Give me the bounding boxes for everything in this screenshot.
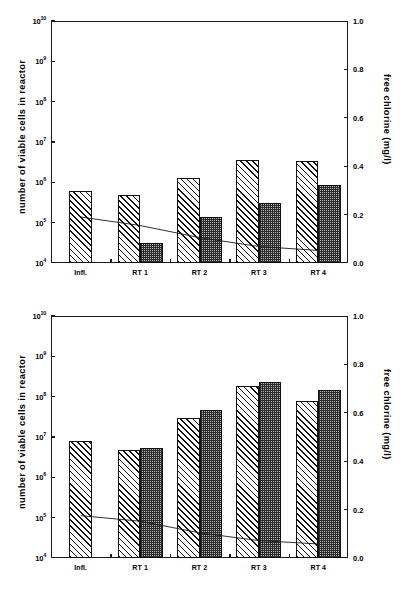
bar-hatched xyxy=(296,401,319,558)
x-axis-tick-label: RT 2 xyxy=(192,564,208,571)
x-axis-tick-label: RT 4 xyxy=(311,269,327,276)
y-axis-tickmark xyxy=(51,141,55,142)
x-axis-tick-label: Infl. xyxy=(74,269,87,276)
y-axis-tick-label: 1010 xyxy=(0,17,46,26)
y-axis-tick-label: 105 xyxy=(0,218,46,227)
bar-hatched xyxy=(236,386,259,558)
y2-axis-tickmark xyxy=(344,364,348,365)
bar-dotted xyxy=(200,217,223,263)
x-axis-tickmark xyxy=(110,554,111,558)
y2-axis-tick-label: 0.0 xyxy=(353,554,363,563)
y-axis-tickmark xyxy=(51,436,55,437)
x-axis-tick-label: RT 1 xyxy=(132,269,148,276)
y2-axis-tickmark xyxy=(344,412,348,413)
y2-axis-title: free chlorine (mg/l) xyxy=(382,74,392,165)
y2-axis-tick-label: 0.4 xyxy=(353,162,363,171)
y2-axis-title: free chlorine (mg/l) xyxy=(382,369,392,460)
y-axis-tick-label: 1010 xyxy=(0,312,46,321)
y-axis-tick-label: 104 xyxy=(0,554,46,563)
x-axis-tickmark xyxy=(229,259,230,263)
bar-hatched xyxy=(236,160,259,263)
x-axis-tick-label: RT 3 xyxy=(251,564,267,571)
bar-dotted xyxy=(318,185,341,263)
x-axis-tick-label: RT 4 xyxy=(311,564,327,571)
y-axis-tickmark xyxy=(51,182,55,183)
y2-axis-tickmark xyxy=(344,117,348,118)
x-axis-tickmark xyxy=(289,554,290,558)
y-axis-tick-label: 104 xyxy=(0,259,46,268)
x-axis-tickmark xyxy=(110,259,111,263)
x-axis-tick-label: RT 2 xyxy=(192,269,208,276)
y2-axis-tickmark xyxy=(344,166,348,167)
y-axis-tickmark xyxy=(51,315,55,316)
y-axis-title: number of viable cells in reactor xyxy=(17,355,27,509)
bar-dotted xyxy=(318,390,341,558)
x-axis-tick-label: RT 3 xyxy=(251,269,267,276)
bar-dotted xyxy=(259,382,282,558)
bar-dotted xyxy=(140,448,163,558)
bar-hatched xyxy=(296,161,319,263)
y2-axis-tickmark xyxy=(344,214,348,215)
bar-hatched xyxy=(69,191,92,263)
y2-axis-tick-label: 0.0 xyxy=(353,259,363,268)
y2-axis-tick-label: 0.6 xyxy=(353,113,363,122)
bar-hatched xyxy=(177,418,200,558)
y2-axis-tick-label: 0.8 xyxy=(353,360,363,369)
y-axis-title: number of viable cells in reactor xyxy=(17,60,27,214)
bar-hatched xyxy=(69,441,92,558)
y2-axis-tick-label: 1.0 xyxy=(353,17,363,26)
x-axis-tick-label: Infl. xyxy=(74,564,87,571)
y2-axis-tick-label: 0.6 xyxy=(353,408,363,417)
bar-dotted xyxy=(140,243,163,263)
y2-axis-tick-label: 0.2 xyxy=(353,505,363,514)
bar-hatched xyxy=(118,195,141,263)
x-axis-tickmark xyxy=(170,259,171,263)
y-axis-tick-label: 105 xyxy=(0,513,46,522)
y-axis-tickmark xyxy=(51,356,55,357)
bar-hatched xyxy=(177,178,200,263)
x-axis-tick-label: RT 1 xyxy=(132,564,148,571)
y-axis-tickmark xyxy=(51,477,55,478)
chart-panel-top: 10410510610710810910100.00.20.40.60.81.0… xyxy=(0,0,405,296)
chart-panel-bottom: 10410510610710810910100.00.20.40.60.81.0… xyxy=(0,295,405,591)
x-axis-tickmark xyxy=(170,554,171,558)
y-axis-tickmark xyxy=(51,101,55,102)
bar-dotted xyxy=(259,203,282,263)
y-axis-tickmark xyxy=(51,396,55,397)
x-axis-tickmark xyxy=(289,259,290,263)
y-axis-tickmark xyxy=(51,517,55,518)
y2-axis-tickmark xyxy=(344,509,348,510)
y2-axis-tickmark xyxy=(344,461,348,462)
y-axis-tickmark xyxy=(51,20,55,21)
y-axis-tickmark xyxy=(51,61,55,62)
y-axis-tickmark xyxy=(51,222,55,223)
y2-axis-tick-label: 1.0 xyxy=(353,312,363,321)
y2-axis-tick-label: 0.4 xyxy=(353,457,363,466)
bar-dotted xyxy=(200,410,223,558)
y2-axis-tick-label: 0.2 xyxy=(353,210,363,219)
y2-axis-tickmark xyxy=(344,69,348,70)
x-axis-tickmark xyxy=(229,554,230,558)
y2-axis-tick-label: 0.8 xyxy=(353,65,363,74)
bar-hatched xyxy=(118,450,141,558)
